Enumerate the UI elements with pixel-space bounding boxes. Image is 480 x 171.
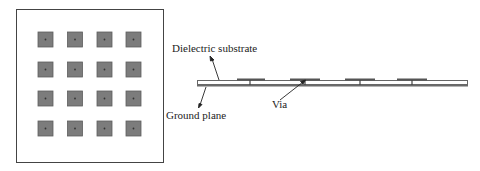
dielectric-substrate	[198, 81, 468, 85]
diagram-canvas: Dielectric substrate Ground plane Via	[0, 0, 480, 171]
patch-grid	[38, 32, 141, 136]
via-label: Via	[272, 99, 287, 110]
ground-plane-label: Ground plane	[166, 110, 226, 121]
diagram-svg	[0, 0, 480, 171]
dielectric-substrate-label: Dielectric substrate	[172, 43, 257, 54]
ground-plane	[197, 85, 468, 87]
via-dots-top	[45, 39, 135, 130]
